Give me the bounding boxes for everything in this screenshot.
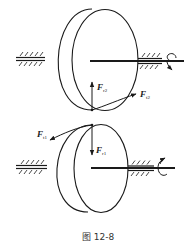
- top-gear: Fr2 Ft2: [16, 9, 184, 111]
- figure-caption: 图 12-8: [82, 232, 115, 242]
- top-gear-back-rim: [58, 9, 92, 110]
- force-label-r2: Fr2: [96, 82, 108, 93]
- force-label-t1: Ft1: [36, 129, 47, 140]
- gear-force-diagram: Fr2 Ft2: [0, 0, 196, 249]
- bottom-contact-point: [91, 124, 94, 127]
- rotation-arrow-icon: [167, 54, 176, 61]
- rotation-arrow-tail: [167, 62, 172, 70]
- force-label-t2: Ft2: [139, 89, 150, 100]
- top-left-bearing-support: [16, 52, 45, 66]
- hatch-icon: [19, 52, 43, 66]
- bottom-gear: Fr1 Ft1: [16, 124, 175, 213]
- hatch-icon: [19, 160, 44, 174]
- force-arrow-t2: [92, 94, 136, 110]
- top-contact-point: [91, 109, 94, 112]
- bottom-left-bearing-support: [16, 160, 47, 174]
- force-label-r1: Fr1: [95, 145, 107, 156]
